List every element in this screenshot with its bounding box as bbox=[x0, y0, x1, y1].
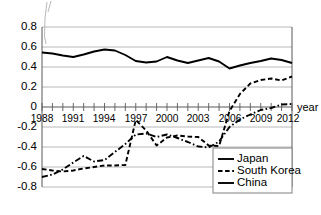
legend-label-south-korea: South Korea bbox=[237, 164, 302, 176]
series-line-japan bbox=[42, 50, 292, 69]
xtick-label: 2009 bbox=[250, 113, 273, 124]
legend-label-china: China bbox=[237, 176, 268, 188]
xtick-label: 1988 bbox=[31, 113, 54, 124]
xtick-label: 2006 bbox=[219, 113, 242, 124]
legend-label-japan: Japan bbox=[237, 152, 268, 164]
scan-artifact-2 bbox=[48, 1, 51, 12]
ytick-label: 0 bbox=[31, 100, 37, 112]
xtick-label: 2012 bbox=[277, 113, 300, 124]
x-axis-title: year bbox=[297, 101, 319, 113]
ytick-label: -0.6 bbox=[17, 160, 37, 172]
ytick-label: 0.8 bbox=[21, 20, 37, 32]
ytick-label: 0.6 bbox=[21, 40, 37, 52]
line-chart: 0.8 0.6 0.4 0.2 0 -0.2 -0.4 -0.6 -0.8 19… bbox=[0, 0, 321, 215]
x-axis-tick-labels: 1988 1991 1994 1997 2000 2003 2006 2009 … bbox=[31, 113, 300, 124]
xtick-label: 2000 bbox=[156, 113, 179, 124]
y-axis-tick-labels: 0.8 0.6 0.4 0.2 0 -0.2 -0.4 -0.6 -0.8 bbox=[17, 20, 37, 192]
ytick-label: 0.4 bbox=[21, 60, 38, 72]
chart-canvas: 0.8 0.6 0.4 0.2 0 -0.2 -0.4 -0.6 -0.8 19… bbox=[0, 0, 321, 215]
legend: Japan South Korea China bbox=[213, 148, 302, 193]
xtick-label: 1994 bbox=[93, 113, 116, 124]
ytick-label: -0.8 bbox=[17, 180, 37, 192]
scan-artifact bbox=[45, 2, 48, 44]
xtick-label: 2003 bbox=[187, 113, 210, 124]
ytick-label: 0.2 bbox=[21, 80, 37, 92]
xtick-label: 1991 bbox=[62, 113, 85, 124]
ytick-label: -0.4 bbox=[17, 140, 37, 152]
